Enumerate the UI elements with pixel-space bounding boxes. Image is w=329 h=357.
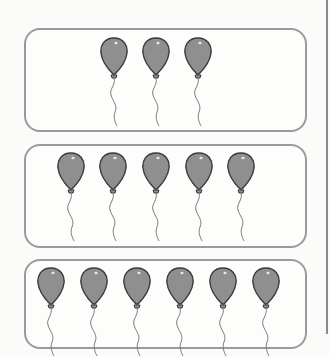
balloon-icon — [184, 37, 212, 127]
balloon-icon — [166, 267, 194, 357]
balloon-icon — [57, 152, 85, 242]
balloon-group-box-1 — [24, 28, 307, 132]
balloon-icon — [209, 267, 237, 357]
balloon-icon — [185, 152, 213, 242]
balloon-icon — [142, 152, 170, 242]
balloon-icon — [100, 37, 128, 127]
balloon-icon — [80, 267, 108, 357]
balloon-icon — [37, 267, 65, 357]
balloon-icon — [99, 152, 127, 242]
balloon-icon — [252, 267, 280, 357]
page-edge-line — [326, 0, 328, 334]
balloon-icon — [123, 267, 151, 357]
balloon-icon — [227, 152, 255, 242]
balloon-icon — [142, 37, 170, 127]
balloon-group-box-3 — [24, 259, 307, 349]
balloon-group-box-2 — [24, 144, 307, 248]
